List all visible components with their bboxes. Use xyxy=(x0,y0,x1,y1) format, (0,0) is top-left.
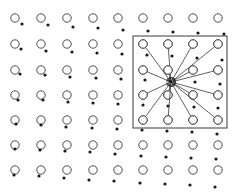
displaced-dot xyxy=(16,98,19,101)
box-circle xyxy=(164,40,172,48)
box-circle xyxy=(214,66,222,74)
displaced-dot xyxy=(170,54,173,57)
displaced-dot xyxy=(38,148,41,151)
grid-circle xyxy=(189,141,197,149)
grid-circle xyxy=(89,116,97,124)
grid-circle xyxy=(37,40,45,48)
grid-circle xyxy=(214,166,222,174)
displaced-dot xyxy=(220,58,223,61)
displaced-dot xyxy=(39,123,42,126)
grid-circle xyxy=(37,116,45,124)
displaced-dot xyxy=(188,183,191,186)
grid-circle xyxy=(164,14,172,22)
box-circle xyxy=(189,116,197,124)
displaced-dot xyxy=(12,173,15,176)
displaced-dot xyxy=(165,129,168,132)
displaced-dot xyxy=(190,130,193,133)
displaced-dot xyxy=(64,125,67,128)
displaced-dot xyxy=(44,49,47,52)
box-circle xyxy=(164,116,172,124)
box-circle xyxy=(189,66,197,74)
grid-circle xyxy=(37,91,45,99)
displaced-dot xyxy=(120,52,123,55)
grid-circle xyxy=(114,166,122,174)
grid-circle xyxy=(214,141,222,149)
grid-circle xyxy=(139,14,147,22)
displaced-dot xyxy=(18,72,21,75)
displaced-dot xyxy=(14,122,17,125)
displaced-dot xyxy=(87,178,90,181)
grid-circle xyxy=(139,166,147,174)
displaced-dot xyxy=(214,157,217,160)
displaced-dot xyxy=(189,156,192,159)
displaced-dot xyxy=(216,106,219,109)
grid-circle xyxy=(37,66,45,74)
grid-circle xyxy=(37,166,45,174)
grid-circle xyxy=(63,40,71,48)
displaced-dot xyxy=(43,73,46,76)
displaced-dot xyxy=(66,100,69,103)
grid-circle xyxy=(164,141,172,149)
grid-circle xyxy=(114,40,122,48)
grid-circle xyxy=(11,40,19,48)
box-circle xyxy=(214,116,222,124)
grid-circle xyxy=(114,116,122,124)
displaced-dot xyxy=(213,185,216,188)
grid-circle xyxy=(11,66,19,74)
displaced-dot xyxy=(164,155,167,158)
grid-circle xyxy=(89,91,97,99)
displaced-dot xyxy=(139,154,142,157)
box-circle xyxy=(214,91,222,99)
displaced-dot xyxy=(218,82,221,85)
grid-circle xyxy=(89,14,97,22)
displaced-dot xyxy=(195,56,198,59)
box-circle xyxy=(139,91,147,99)
displaced-dot xyxy=(91,101,94,104)
grid-circle xyxy=(89,141,97,149)
displaced-dot xyxy=(19,47,22,50)
displaced-dot xyxy=(94,76,97,79)
grid-circle xyxy=(214,14,222,22)
grid-circle xyxy=(11,166,19,174)
displaced-dot xyxy=(63,149,66,152)
grid-circle xyxy=(89,66,97,74)
displaced-dot xyxy=(119,77,122,80)
grid-circle xyxy=(164,166,172,174)
displaced-dot xyxy=(146,29,149,32)
displaced-dot xyxy=(68,75,71,78)
box-circle xyxy=(139,116,147,124)
grid-circle xyxy=(189,14,197,22)
grid-circle xyxy=(37,141,45,149)
grid-circle xyxy=(11,14,19,22)
grid-circle xyxy=(89,166,97,174)
grid-circle xyxy=(63,166,71,174)
displaced-dot xyxy=(192,105,195,108)
displaced-dot xyxy=(41,98,44,101)
grid-circle xyxy=(139,141,147,149)
displaced-dot xyxy=(70,50,73,53)
box-circle xyxy=(139,66,147,74)
displaced-dot xyxy=(20,22,23,25)
displaced-dot xyxy=(193,80,196,83)
grid-circle xyxy=(114,91,122,99)
displaced-dot xyxy=(90,126,93,129)
box-circle xyxy=(164,66,172,74)
displaced-dot xyxy=(163,182,166,185)
grid-circle xyxy=(114,14,122,22)
grid-circle xyxy=(11,91,19,99)
grid-circle xyxy=(63,116,71,124)
displaced-dot xyxy=(121,28,124,31)
displaced-dot xyxy=(95,51,98,54)
box-circle xyxy=(189,40,197,48)
displaced-dot xyxy=(96,26,99,29)
displaced-dot xyxy=(140,128,143,131)
displaced-dot xyxy=(13,147,16,150)
window-matching-diagram xyxy=(0,0,237,192)
grid-circle xyxy=(63,91,71,99)
displaced-dot xyxy=(46,23,49,26)
box-circle xyxy=(139,40,147,48)
displaced-dot xyxy=(112,179,115,182)
displaced-dot xyxy=(145,53,148,56)
displaced-dot xyxy=(115,127,118,130)
grid-circle xyxy=(37,14,45,22)
